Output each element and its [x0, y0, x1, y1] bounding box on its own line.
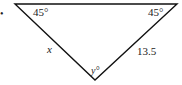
angle-label-bottom: y° [91, 66, 99, 76]
angle-label-top-left: 45° [33, 7, 48, 18]
side-label-x: x [47, 44, 52, 55]
angle-label-top-right: 45° [148, 7, 163, 18]
side-label-right: 13.5 [137, 46, 156, 57]
bullet-marker: • [0, 9, 4, 19]
